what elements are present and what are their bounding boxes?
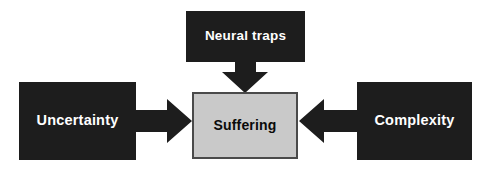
arrow-uncertainty-to-suffering bbox=[132, 99, 192, 143]
node-complexity[interactable]: Complexity bbox=[357, 82, 472, 160]
node-neural-traps-label: Neural traps bbox=[205, 29, 286, 44]
node-complexity-label: Complexity bbox=[374, 113, 454, 129]
node-uncertainty-label: Uncertainty bbox=[37, 113, 119, 129]
node-neural-traps[interactable]: Neural traps bbox=[186, 11, 305, 62]
arrow-complexity-to-suffering bbox=[299, 99, 359, 143]
diagram-canvas: Uncertainty Neural traps Complexity Suff… bbox=[0, 0, 485, 180]
node-suffering-label: Suffering bbox=[213, 118, 276, 133]
arrow-neural-traps-to-suffering bbox=[222, 61, 268, 93]
node-uncertainty[interactable]: Uncertainty bbox=[19, 82, 136, 160]
node-suffering[interactable]: Suffering bbox=[192, 92, 298, 159]
